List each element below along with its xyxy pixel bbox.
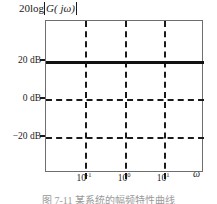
y-axis-title: 20logG( jω) (19, 2, 77, 15)
x-tick-mantissa: 10 (118, 173, 128, 183)
transfer-function-symbol: G (46, 2, 54, 14)
transfer-function-argument: ( jω (54, 2, 71, 14)
x-tick-mantissa: 10 (77, 173, 87, 183)
y-axis-title-prefix: 20log (19, 2, 44, 14)
bode-magnitude-figure: 20logG( jω) 20 dB 0 dB −20 dB 10-1 100 1… (0, 0, 217, 204)
gridline-horizontal-neg20db (46, 137, 204, 139)
x-axis-symbol-omega: ω (193, 168, 200, 179)
transfer-function-argument-close: ) (71, 2, 75, 14)
y-tick-mark-0db (40, 97, 45, 99)
plot-area (45, 20, 203, 172)
y-tick-label-20db: 20 dB (0, 55, 45, 65)
magnitude-trace (46, 61, 204, 64)
x-tick-exponent: 0 (127, 171, 130, 178)
y-tick-mark-neg20db (40, 135, 45, 137)
y-tick-label-neg20db: −20 dB (0, 131, 45, 141)
y-tick-mark-20db (40, 59, 45, 61)
x-tick-label-10e-1: 10-1 (77, 173, 92, 184)
x-tick-exponent: 1 (166, 171, 169, 178)
x-tick-exponent: -1 (86, 171, 91, 178)
figure-caption: 图 7-11 某系统的幅频特性曲线 (0, 195, 217, 204)
x-tick-mantissa: 10 (157, 173, 167, 183)
x-tick-label-10e1: 101 (157, 173, 170, 184)
y-tick-label-0db: 0 dB (0, 93, 45, 103)
y-axis-title-magnitude: G( jω) (44, 2, 77, 15)
x-tick-label-10e0: 100 (118, 173, 131, 184)
gridline-horizontal-0db (46, 99, 204, 101)
